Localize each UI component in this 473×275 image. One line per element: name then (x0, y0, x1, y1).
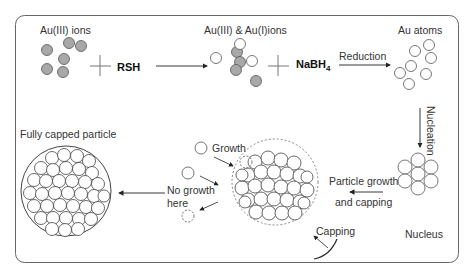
growth-label: Growth (212, 142, 246, 154)
reduction-label: Reduction (339, 50, 386, 62)
growth-arrow (214, 157, 233, 166)
fully-capped-particle (21, 146, 111, 237)
capping-curve (314, 239, 337, 259)
rejected-atom (182, 210, 194, 222)
au-atoms-label: Au atoms (398, 24, 442, 36)
no-growth-here-label: here (167, 197, 188, 209)
au3-ions-label: Au(III) ions (40, 24, 91, 36)
nanoparticle-formation-diagram: Au(III) ions RSH Au(III) & Au(I)ions (0, 0, 473, 275)
nucleation-label: Nucleation (425, 106, 437, 156)
nucleus-label: Nucleus (405, 228, 443, 240)
plus-operator (90, 55, 111, 76)
incoming-atom (195, 142, 207, 154)
au-atoms-group: Au atoms (395, 24, 443, 90)
incoming-atom-2 (182, 167, 194, 179)
nabh4-label: NaBH4 (296, 58, 331, 73)
nucleus-cluster (398, 153, 438, 195)
mixed-ions-label: Au(III) & Au(I)ions (204, 24, 287, 36)
capping-arrow (314, 236, 328, 248)
plus-operator-2 (268, 55, 289, 76)
rsh-label: RSH (117, 61, 140, 73)
no-growth-label: No growth (167, 184, 215, 196)
and-capping-label: and capping (335, 196, 392, 208)
particle-growth-label: Particle growth (329, 175, 399, 187)
au3-ions-group: Au(III) ions (40, 24, 91, 78)
no-growth-arrow-out (200, 202, 218, 210)
mixed-ions-group: Au(III) & Au(I)ions (204, 24, 287, 87)
capping-label: Capping (316, 225, 355, 237)
fully-capped-label: Fully capped particle (20, 128, 116, 140)
